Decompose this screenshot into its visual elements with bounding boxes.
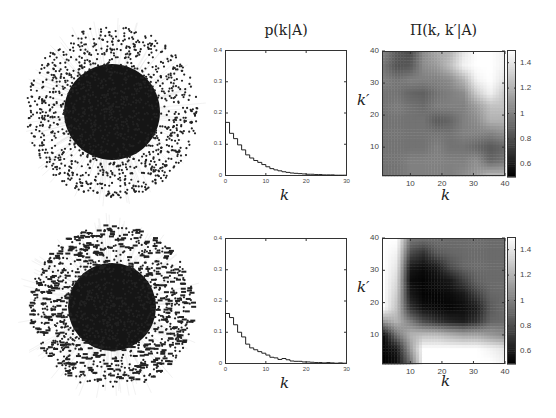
heat-ytick: 30 [370,78,379,87]
heat-ytick: 30 [370,265,379,274]
hist-xtick: 20 [303,366,310,372]
hist-ytick: 0 [219,360,222,366]
heat-ylabel-bottom: k′ [357,278,370,296]
colorbar-tick: 1.4 [520,58,531,67]
hist-xtick: 30 [343,178,350,184]
heat-ytick: 40 [370,233,379,242]
hist-ytick: 0 [219,172,222,178]
heatmap-top [382,51,505,176]
hist-xtick: 20 [303,178,310,184]
heat-ytick: 20 [370,110,379,119]
heat-xtick: 40 [501,179,510,188]
colorbar-tick: 1 [520,109,524,118]
heat-xtick: 20 [437,179,446,188]
heat-title-top: Π(k, k′|A) [382,22,505,38]
hist-ytick: 0.1 [214,328,222,334]
hist-ytick: 0.4 [214,47,222,53]
histogram-bottom [225,238,347,364]
heat-xtick: 40 [501,367,510,376]
colorbar-top [507,50,516,177]
colorbar-tick: 0.6 [520,346,531,355]
heat-xtick: 10 [406,179,415,188]
colorbar-tick: 1.2 [520,270,531,279]
colorbar-tick: 1.2 [520,83,531,92]
heat-ytick: 40 [370,46,379,55]
heat-xtick: 30 [469,367,478,376]
heat-ytick: 10 [370,142,379,151]
hist-xtick: 30 [343,366,350,372]
network-graph-bottom [20,215,205,400]
colorbar-tick: 1.4 [520,245,531,254]
hist-ytick: 0.3 [214,266,222,272]
network-graph-bottom-svg [20,215,205,400]
hist-xtick: 10 [262,366,269,372]
hist-xlabel-top: k [280,186,289,204]
hist-ytick: 0.4 [214,235,222,241]
hist-ytick: 0.2 [214,109,222,115]
colorbar-bottom [507,237,516,364]
heat-xtick: 10 [406,367,415,376]
hist-ytick: 0.3 [214,78,222,84]
colorbar-tick: 0.8 [520,134,531,143]
hist-xtick: 10 [262,178,269,184]
heatmap-bottom [382,238,505,364]
heat-ylabel-top: k′ [357,91,370,109]
network-graph-top-svg [20,20,205,205]
hist-xtick: 0 [224,366,227,372]
hist-ytick: 0.2 [214,297,222,303]
network-graph-top [20,20,205,205]
colorbar-tick: 0.8 [520,321,531,330]
colorbar-tick: 1 [520,296,524,305]
heat-xtick: 20 [437,367,446,376]
heat-ytick: 20 [370,298,379,307]
histogram-top [225,50,347,176]
hist-ytick: 0.1 [214,140,222,146]
heat-ytick: 10 [370,330,379,339]
hist-title-top: p(k|A) [225,22,347,38]
colorbar-tick: 0.6 [520,159,531,168]
hist-xlabel-bottom: k [280,374,289,392]
heat-xtick: 30 [469,179,478,188]
heat-xlabel-top: k [441,186,450,204]
hist-xtick: 0 [224,178,227,184]
